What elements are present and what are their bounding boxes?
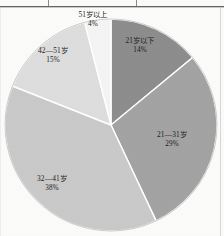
- pie-slice-percent-1: 29%: [137, 140, 207, 150]
- pie-slice-label-text-2: 32—41岁: [37, 174, 67, 183]
- pie-slice-percent-4: 4%: [58, 20, 128, 30]
- pie-slice-label-32-41岁: 32—41岁 38%: [17, 174, 87, 193]
- table-column-tick-right: [136, 0, 137, 7]
- table-column-tick-left: [48, 0, 49, 7]
- pie-slice-label-text-1: 21—31岁: [157, 130, 187, 139]
- pie-chart: 21岁以下 14% 21—31岁 29% 32—41岁 38% 42—51岁 1…: [0, 8, 224, 236]
- pie-slice-label-42-51岁: 42—51岁 15%: [18, 46, 88, 65]
- pie-slice-label-text-3: 42—51岁: [38, 46, 68, 55]
- pie-slice-label-21岁以下: 21岁以下 14%: [105, 36, 175, 55]
- pie-slice-label-text-0: 21岁以下: [125, 36, 154, 45]
- pie-slice-label-21-31岁: 21—31岁 29%: [137, 130, 207, 149]
- pie-slice-percent-2: 38%: [17, 184, 87, 194]
- scanned-page: 21岁以下 14% 21—31岁 29% 32—41岁 38% 42—51岁 1…: [0, 0, 224, 236]
- pie-slice-label-51岁以上: 51岁以上 4%: [58, 10, 128, 29]
- pie-slice-percent-0: 14%: [105, 46, 175, 56]
- pie-slice-percent-3: 15%: [18, 56, 88, 66]
- pie-slice-label-text-4: 51岁以上: [78, 10, 107, 19]
